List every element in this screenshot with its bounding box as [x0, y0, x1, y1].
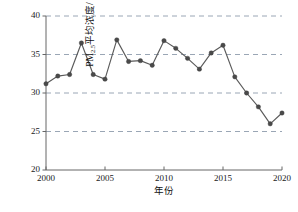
data-point-2006: 2006: 36.9: [115, 38, 119, 42]
series-line-pm25: [46, 40, 282, 124]
data-point-2020: 2020: 27.4: [280, 111, 284, 115]
x-tick-label-2005: 2005: [96, 173, 115, 183]
ylabel-prefix: PM: [85, 53, 95, 67]
data-point-2008: 2008: 34.2: [138, 58, 142, 62]
pm25-line-chart: 2025303540 20002005201020152020 2000: 31…: [0, 0, 298, 212]
data-point-2003: 2003: 36.5: [79, 41, 83, 45]
data-point-2014: 2014: 35.2: [209, 51, 213, 55]
ylabel-subscript: 2.5: [89, 45, 96, 53]
data-point-2005: 2005: 31.8: [103, 77, 107, 81]
x-tick-label-2015: 2015: [214, 173, 233, 183]
x-tick-label-2000: 2000: [37, 173, 56, 183]
data-point-2002: 2002: 32.4: [67, 72, 71, 76]
ylabel-middle: 平均浓度/（: [84, 0, 95, 45]
data-point-2007: 2007: 34.1: [126, 59, 130, 63]
data-point-2009: 2009: 33.6: [150, 63, 154, 67]
data-point-2004: 2004: 32.4: [91, 72, 95, 76]
data-point-2001: 2001: 32.2: [56, 74, 60, 78]
data-point-2012: 2012: 34.5: [185, 56, 189, 60]
data-point-2000: 2000: 31.2: [44, 82, 48, 86]
data-point-2011: 2011: 35.8: [174, 46, 178, 50]
chart-canvas: 2025303540 20002005201020152020 2000: 31…: [0, 0, 298, 212]
y-tick-label-30: 30: [31, 87, 41, 97]
y-tick-label-35: 35: [31, 49, 41, 59]
x-ticks-group: [46, 167, 282, 171]
data-point-2016: 2016: 32.1: [233, 75, 237, 79]
y-tick-labels-group: 2025303540: [31, 10, 41, 174]
x-tick-label-2010: 2010: [155, 173, 174, 183]
data-markers-group: 2000: 31.22001: 32.22002: 32.42003: 36.5…: [44, 38, 284, 126]
x-tick-label-2020: 2020: [273, 173, 292, 183]
x-axis-title: 年份: [154, 185, 174, 196]
data-point-2017: 2017: 30: [244, 91, 248, 95]
x-tick-labels-group: 20002005201020152020: [37, 173, 292, 183]
y-ticks-group: [43, 16, 47, 170]
y-tick-label-25: 25: [31, 126, 41, 136]
y-axis-title: PM2.5平均浓度/（μg/m3）: [84, 0, 96, 67]
data-point-2019: 2019: 26: [268, 122, 272, 126]
data-point-2015: 2015: 36.2: [221, 43, 225, 47]
data-point-2013: 2013: 33.1: [197, 67, 201, 71]
gridlines-group: [46, 16, 282, 132]
y-tick-label-40: 40: [31, 10, 41, 20]
data-point-2018: 2018: 28.2: [256, 105, 260, 109]
data-point-2010: 2010: 36.8: [162, 38, 166, 42]
svg-text:PM2.5平均浓度/（μg/m3）: PM2.5平均浓度/（μg/m3）: [84, 0, 96, 67]
